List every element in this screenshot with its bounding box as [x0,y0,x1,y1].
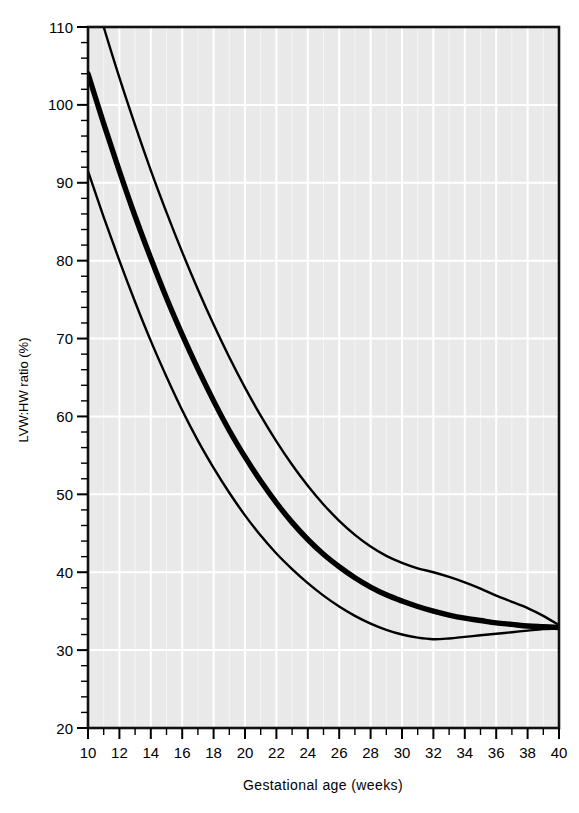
x-tick-label: 30 [394,744,411,761]
x-tick-label: 38 [519,744,536,761]
x-axis-label: Gestational age (weeks) [243,777,403,793]
y-tick-label: 20 [56,720,73,737]
x-tick-label: 20 [237,744,254,761]
y-tick-label: 50 [56,486,73,503]
y-tick-label: 80 [56,252,73,269]
y-tick-label: 40 [56,564,73,581]
x-tick-label: 34 [456,744,473,761]
y-tick-label: 110 [49,19,73,36]
x-tick-label: 18 [205,744,222,761]
x-tick-label: 36 [488,744,505,761]
x-tick-label: 40 [551,744,568,761]
x-tick-label: 26 [331,744,348,761]
y-tick-label: 70 [56,330,73,347]
y-tick-label: 30 [56,642,73,659]
x-tick-label: 32 [425,744,442,761]
x-tick-label: 28 [362,744,379,761]
chart-canvas: 2030405060708090100110 10121416182022242… [0,0,579,813]
y-tick-label: 100 [48,96,73,113]
chart-figure: 2030405060708090100110 10121416182022242… [0,0,579,813]
x-tick-label: 12 [111,744,128,761]
x-tick-label: 10 [80,744,97,761]
x-tick-label: 14 [142,744,159,761]
y-axis-label: LVW:HW ratio (%) [16,338,31,443]
x-tick-label: 16 [174,744,191,761]
x-tick-label: 24 [299,744,316,761]
y-tick-label: 90 [56,174,73,191]
x-tick-label: 22 [268,744,285,761]
y-tick-label: 60 [56,408,73,425]
